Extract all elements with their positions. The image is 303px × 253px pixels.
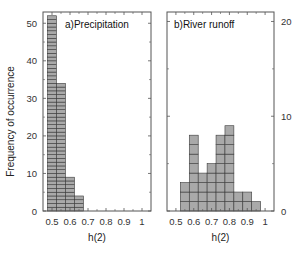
- x-tick-label: 0.8: [99, 216, 112, 227]
- y-tick-label: 50: [26, 18, 37, 29]
- y-tick-label: 20: [281, 16, 292, 27]
- y-tick-label: 40: [26, 55, 37, 66]
- histogram-bar: [207, 164, 216, 211]
- histogram-bar: [189, 135, 198, 211]
- x-tick-label: 0.7: [81, 216, 94, 227]
- panel-title: a)Precipitation: [65, 19, 129, 30]
- y-axis-label: Frequency of occurrence: [5, 66, 16, 177]
- x-axis-label: h(2): [88, 232, 106, 243]
- x-tick-label: 0.7: [205, 216, 218, 227]
- x-tick-label: 0.8: [223, 216, 236, 227]
- y-tick-label: 0: [281, 206, 286, 217]
- x-axis-label: h(2): [212, 232, 230, 243]
- panel-title: b)River runoff: [174, 19, 235, 30]
- y-tick-label: 10: [281, 111, 292, 122]
- x-tick-label: 1: [139, 216, 144, 227]
- histogram-bar: [66, 177, 75, 211]
- panel-precipitation: 0.50.60.70.80.9101020304050a)Precipitati…: [5, 12, 151, 243]
- x-tick-label: 1: [262, 216, 267, 227]
- histogram-bar: [225, 126, 234, 211]
- histogram-bar: [48, 16, 57, 211]
- x-tick-label: 0.5: [45, 216, 58, 227]
- y-tick-label: 20: [26, 130, 37, 141]
- histogram-bar: [234, 192, 243, 211]
- x-tick-label: 0.5: [169, 216, 182, 227]
- x-tick-label: 0.9: [117, 216, 130, 227]
- panel-river-runoff: 0.50.60.70.80.9101020b)River runoffh(2): [167, 12, 292, 243]
- histogram-bar: [198, 173, 207, 211]
- histogram-bar: [180, 183, 189, 211]
- histogram-bar: [216, 135, 225, 211]
- histogram-figure: 0.50.60.70.80.9101020304050a)Precipitati…: [0, 0, 303, 253]
- y-tick-label: 0: [32, 206, 37, 217]
- histogram-bar: [75, 196, 84, 211]
- x-tick-label: 0.6: [63, 216, 76, 227]
- x-tick-label: 0.9: [241, 216, 254, 227]
- y-tick-label: 10: [26, 168, 37, 179]
- histogram-bar: [57, 83, 66, 211]
- x-tick-label: 0.6: [187, 216, 200, 227]
- y-tick-label: 30: [26, 93, 37, 104]
